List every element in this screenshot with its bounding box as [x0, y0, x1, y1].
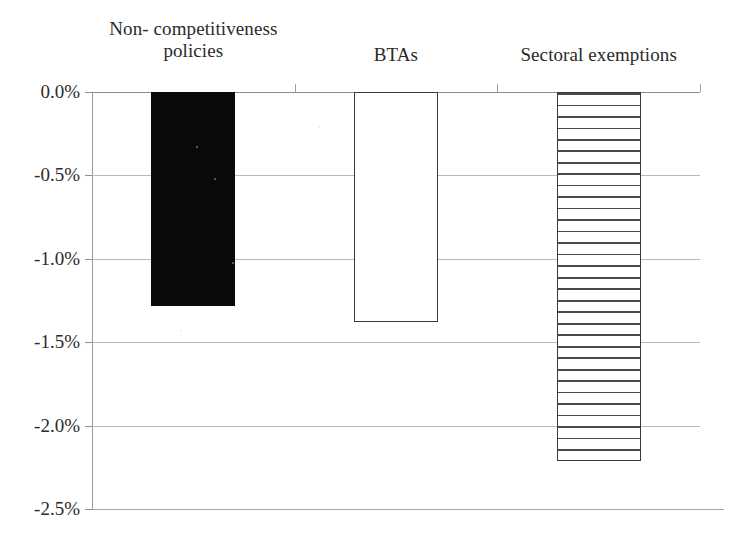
bar-btas: [354, 92, 438, 322]
y-tick-label-3: -1.5%: [0, 331, 80, 353]
category-label-sectoral-exemptions: Sectoral exemptions: [467, 44, 730, 66]
y-tick-label-0: 0.0%: [0, 81, 80, 103]
gridline-5: [92, 509, 724, 510]
y-tick-label-4: -2.0%: [0, 415, 80, 437]
category-separator-tick-2: [497, 84, 498, 92]
y-tick-label-1: -0.5%: [0, 164, 80, 186]
bar-chart-figure: Non- competitiveness policies BTAs Secto…: [0, 0, 732, 546]
plot-area: [92, 92, 700, 509]
category-separator-tick-1: [295, 84, 296, 92]
y-axis-tick-labels: 0.0% -0.5% -1.0% -1.5% -2.0% -2.5%: [0, 92, 80, 509]
y-tick-label-2: -1.0%: [0, 248, 80, 270]
bar-non-competitiveness-policies: [151, 92, 235, 306]
y-tick-label-5: -2.5%: [0, 498, 80, 520]
bar-sectoral-exemptions: [557, 92, 641, 461]
category-separator-tick-3: [700, 84, 701, 92]
